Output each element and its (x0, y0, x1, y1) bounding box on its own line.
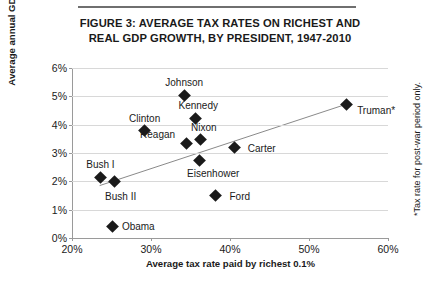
data-point-label: Ford (229, 190, 250, 201)
data-point-label: Clinton (129, 112, 160, 123)
x-tick-label: 50% (298, 243, 319, 255)
data-point-label: Eisenhower (187, 168, 239, 179)
y-tick-label: 6% (52, 62, 67, 74)
figure-title-line-1: FIGURE 3: AVERAGE TAX RATES ON RICHEST A… (36, 16, 404, 31)
data-point-label: Bush I (86, 158, 114, 169)
x-tick-label: 20% (61, 243, 82, 255)
data-point-label: Johnson (165, 76, 203, 87)
x-axis-title: Average tax rate paid by richest 0.1% (72, 258, 389, 269)
y-tick-mark (69, 181, 72, 182)
y-tick-label: 3% (52, 147, 67, 159)
figure-title-line-2: REAL GDP GROWTH, BY PRESIDENT, 1947-2010 (36, 31, 404, 46)
figure-container: FIGURE 3: AVERAGE TAX RATES ON RICHEST A… (0, 0, 440, 293)
data-point-label: Carter (248, 142, 276, 153)
gridline-horizontal (72, 125, 388, 126)
x-tick-mark (72, 238, 73, 241)
y-tick-mark (69, 68, 72, 69)
gridline-horizontal (72, 68, 388, 69)
x-tick-label: 40% (219, 243, 240, 255)
y-tick-label: 2% (52, 175, 67, 187)
x-tick-mark (230, 238, 231, 241)
x-tick-mark (151, 238, 152, 241)
header-rule (78, 6, 356, 8)
y-tick-label: 1% (52, 204, 67, 216)
y-tick-mark (69, 210, 72, 211)
y-tick-mark (69, 96, 72, 97)
x-tick-label: 30% (140, 243, 161, 255)
y-tick-label: 4% (52, 119, 67, 131)
data-point-label: Nixon (191, 122, 217, 133)
data-point-label: Truman* (357, 105, 395, 116)
gridline-horizontal (72, 153, 388, 154)
y-tick-label: 5% (52, 90, 67, 102)
y-axis-title: Average annual GDP growth rate (6, 0, 20, 96)
gridline-horizontal (72, 210, 388, 211)
gridline-horizontal (72, 96, 388, 97)
data-point-label: Kennedy (178, 100, 217, 111)
data-point-label: Reagan (140, 129, 175, 140)
data-point-label: Bush II (105, 190, 136, 201)
x-tick-mark (388, 238, 389, 241)
x-tick-label: 60% (377, 243, 398, 255)
y-tick-mark (69, 125, 72, 126)
plot-area: 0%1%2%3%4%5%6%20%30%40%50%60%Truman*John… (72, 68, 388, 238)
figure-footnote: *Tax rate for post-war period only. (412, 26, 426, 216)
data-point-label: Obama (122, 221, 155, 232)
figure-title: FIGURE 3: AVERAGE TAX RATES ON RICHEST A… (36, 16, 404, 46)
x-tick-mark (309, 238, 310, 241)
y-tick-mark (69, 153, 72, 154)
